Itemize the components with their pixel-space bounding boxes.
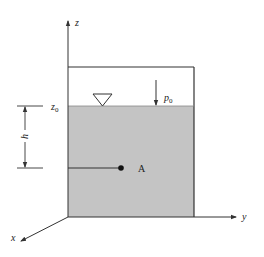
x-axis bbox=[21, 217, 68, 241]
point-a-marker bbox=[118, 165, 124, 171]
point-a-label: A bbox=[138, 163, 146, 174]
x-axis-label: x bbox=[10, 232, 16, 243]
hydrostatics-diagram: z y x p0 z0 h A bbox=[0, 0, 264, 257]
depth-label: h bbox=[19, 134, 30, 139]
fluid-region bbox=[68, 106, 194, 217]
free-surface-triangle-icon bbox=[93, 94, 112, 106]
free-surface-elevation-label: z0 bbox=[50, 101, 59, 114]
y-axis-label: y bbox=[241, 211, 247, 222]
surface-pressure-label: p0 bbox=[163, 92, 173, 105]
z-axis-label: z bbox=[74, 17, 79, 28]
